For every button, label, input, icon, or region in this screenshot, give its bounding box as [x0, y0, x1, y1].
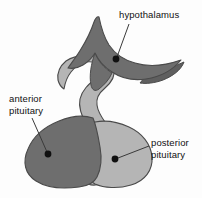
hypothalamus-shape-group — [68, 17, 184, 91]
hypothalamus-shape — [68, 17, 181, 80]
marker-dot-anterior-pituitary — [45, 151, 52, 158]
label-hypothalamus: hypothalamus — [119, 9, 179, 21]
label-anterior-pituitary-line2: pituitary — [9, 105, 43, 117]
label-posterior-pituitary-line1: posterior — [151, 137, 189, 149]
figure-root: hypothalamus anterior pituitary posterio… — [0, 0, 202, 198]
label-hypothalamus-line1: hypothalamus — [119, 9, 179, 21]
leader-line-hypothalamus — [117, 24, 129, 57]
label-posterior-pituitary: posterior pituitary — [151, 137, 189, 160]
marker-dot-posterior-pituitary — [112, 156, 119, 163]
marker-dot-hypothalamus — [113, 56, 120, 63]
label-posterior-pituitary-line2: pituitary — [151, 149, 189, 161]
label-anterior-pituitary-line1: anterior — [9, 93, 43, 105]
label-anterior-pituitary: anterior pituitary — [9, 93, 43, 116]
